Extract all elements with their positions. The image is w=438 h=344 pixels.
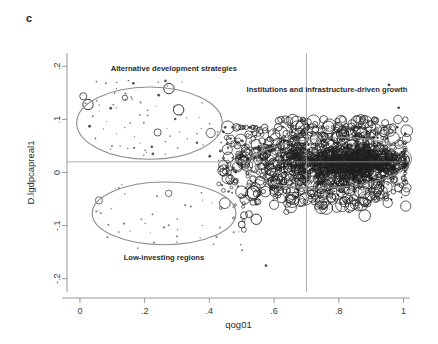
scatter-marker: [147, 109, 149, 111]
scatter-marker: [284, 171, 286, 173]
scatter-marker: [128, 80, 130, 82]
scatter-marker: [179, 131, 180, 132]
scatter-marker: [221, 184, 223, 186]
x-tick-label: .4: [206, 306, 214, 316]
scatter-marker: [143, 154, 145, 156]
scatter-marker: [385, 173, 386, 174]
scatter-marker: [335, 148, 336, 149]
scatter-marker: [312, 126, 319, 133]
scatter-marker: [176, 218, 178, 220]
scatter-marker: [217, 131, 219, 133]
scatter-marker: [269, 200, 278, 209]
scatter-marker: [401, 125, 413, 137]
scatter-marker: [109, 107, 112, 110]
scatter-marker: [290, 179, 293, 182]
scatter-marker: [374, 143, 376, 145]
scatter-marker: [379, 159, 380, 160]
scatter-marker: [367, 170, 369, 172]
scatter-marker: [95, 211, 97, 213]
scatter-marker: [169, 135, 171, 137]
scatter-marker: [115, 188, 116, 189]
scatter-marker: [80, 93, 87, 100]
scatter-marker: [229, 137, 232, 140]
scatter-marker: [391, 190, 395, 194]
scatter-marker: [129, 122, 131, 124]
scatter-marker: [251, 170, 254, 173]
x-tick-label: 0: [77, 306, 82, 316]
scatter-marker: [395, 163, 397, 165]
scatter-marker: [127, 148, 129, 150]
scatter-marker: [316, 142, 318, 144]
scatter-marker: [112, 104, 114, 106]
scatter-marker: [240, 244, 242, 246]
scatter-marker: [303, 153, 304, 154]
scatter-marker: [349, 143, 351, 145]
scatter-marker: [334, 190, 336, 192]
scatter-marker: [268, 129, 280, 141]
scatter-marker: [111, 145, 113, 147]
scatter-marker: [392, 154, 394, 156]
scatter-marker: [150, 146, 153, 149]
scatter-marker: [310, 132, 312, 134]
x-tick-label: .6: [270, 306, 278, 316]
scatter-marker: [397, 106, 400, 109]
scatter-marker: [231, 192, 233, 194]
scatter-marker: [255, 203, 257, 205]
scatter-marker: [250, 134, 252, 136]
scatter-marker: [341, 158, 343, 160]
scatter-marker: [144, 223, 145, 224]
scatter-marker: [379, 143, 381, 145]
figure-panel: c 0.2.4.6.81.2.10-.1-.2 Alternative deve…: [0, 0, 438, 344]
scatter-marker: [328, 144, 329, 145]
scatter-marker: [95, 138, 97, 140]
scatter-marker: [131, 98, 133, 100]
scatter-marker: [99, 110, 100, 111]
y-tick-label: 0: [52, 170, 62, 175]
scatter-marker: [177, 229, 178, 230]
scatter-marker: [348, 164, 350, 166]
scatter-marker: [382, 155, 383, 156]
scatter-marker: [341, 188, 342, 189]
scatter-marker: [258, 145, 260, 147]
y-tick-label: -.1: [52, 220, 62, 231]
scatter-marker: [401, 151, 403, 153]
scatter-marker: [129, 230, 130, 231]
scatter-marker: [211, 202, 212, 203]
scatter-marker: [165, 190, 172, 197]
scatter-marker: [380, 172, 382, 174]
x-tick-label: .2: [141, 306, 149, 316]
scatter-marker: [151, 213, 153, 215]
scatter-marker: [165, 141, 167, 143]
scatter-marker: [329, 168, 331, 170]
scatter-marker: [312, 152, 314, 154]
scatter-marker: [331, 170, 333, 172]
scatter-marker: [320, 127, 321, 128]
scatter-marker: [277, 152, 279, 154]
scatter-marker: [241, 205, 244, 208]
scatter-marker: [394, 115, 402, 123]
scatter-marker: [280, 155, 281, 156]
scatter-marker: [140, 101, 142, 103]
scatter-marker: [186, 117, 187, 118]
scatter-marker: [337, 151, 339, 153]
scatter-marker: [355, 168, 357, 170]
y-tick-label: .2: [52, 63, 62, 71]
scatter-marker: [199, 237, 200, 238]
scatter-marker: [320, 166, 322, 168]
scatter-marker: [302, 181, 304, 183]
scatter-marker: [241, 249, 243, 251]
highlight-ellipse-low-investing-regions: [92, 182, 236, 245]
scatter-marker: [208, 155, 211, 158]
scatter-marker: [364, 178, 365, 179]
scatter-marker: [263, 163, 265, 165]
scatter-marker: [241, 139, 243, 141]
scatter-marker: [222, 189, 226, 193]
scatter-marker: [98, 210, 99, 211]
scatter-marker: [374, 151, 375, 152]
scatter-marker: [167, 128, 168, 129]
scatter-marker: [227, 146, 229, 148]
scatter-marker: [256, 159, 258, 161]
scatter-marker: [398, 157, 400, 159]
scatter-marker: [190, 205, 192, 207]
scatter-marker: [250, 167, 252, 169]
